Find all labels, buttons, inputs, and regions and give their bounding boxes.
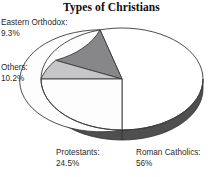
pie-label-eastern-orthodox-name: Eastern Orthodox: xyxy=(1,18,67,29)
pie-label-roman-catholics-name: Roman Catholics: xyxy=(136,148,201,159)
pie-label-others-name: Others: xyxy=(1,63,28,74)
pie-label-roman-catholics-value: 56% xyxy=(136,159,201,170)
pie-label-protestants-value: 24.5% xyxy=(56,159,100,170)
pie-label-eastern-orthodox-value: 9.3% xyxy=(1,29,67,40)
pie-chart-figure: Types of Christians Eastern Orthodox: 9.… xyxy=(0,0,223,177)
pie-label-others-value: 10.2% xyxy=(1,74,28,85)
pie-label-protestants-name: Protestants: xyxy=(56,148,100,159)
pie-label-others: Others: 10.2% xyxy=(1,63,28,84)
pie-label-roman-catholics: Roman Catholics: 56% xyxy=(136,148,201,169)
pie-label-protestants: Protestants: 24.5% xyxy=(56,148,100,169)
pie-label-eastern-orthodox: Eastern Orthodox: 9.3% xyxy=(1,18,67,39)
pie-slices xyxy=(20,30,122,132)
